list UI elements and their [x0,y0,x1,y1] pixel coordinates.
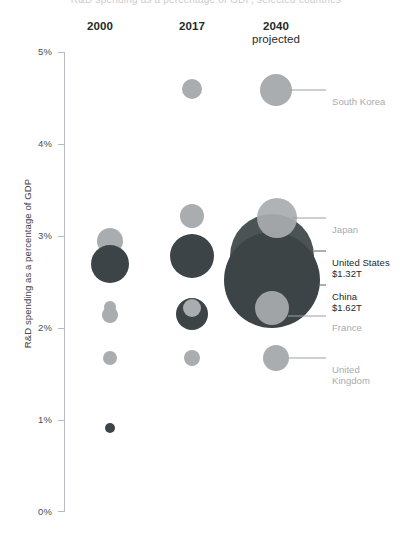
callout-united-kingdom: United Kingdom [332,352,370,387]
callout-south-korea: South Korea [332,84,385,107]
bubble-united-states-2000[interactable] [91,245,129,283]
callout-south-korea-label: South Korea [332,96,385,107]
callout-japan-label: Japan [332,224,358,235]
callout-united-kingdom-label: United Kingdom [332,364,370,387]
callout-united-states-value: $1.32T [332,268,390,280]
bubble-france-2000[interactable] [102,307,118,323]
bubble-chart: R&D spending as a percentage of GDP, sel… [0,0,412,539]
bubble-united-states-2017[interactable] [170,234,214,278]
bubble-china-2000[interactable] [105,423,115,433]
bubble-south-korea-2017[interactable] [182,79,202,99]
callout-japan: Japan [332,212,358,235]
bubble-united-kingdom-2040[interactable] [263,345,289,371]
bubble-france-2040[interactable] [255,291,289,325]
callout-united-states-label: United States [332,257,390,268]
bubble-united-kingdom-2017[interactable] [184,350,200,366]
callout-china-label: China [332,291,357,302]
bubble-south-korea-2040[interactable] [260,74,292,106]
bubble-united-kingdom-2000[interactable] [103,351,117,365]
callout-france-label: France [332,322,362,333]
bubble-japan-2040[interactable] [257,198,297,238]
bubble-japan-2017[interactable] [180,204,204,228]
bubble-france-2017[interactable] [183,299,201,317]
callout-france: France [332,310,362,333]
